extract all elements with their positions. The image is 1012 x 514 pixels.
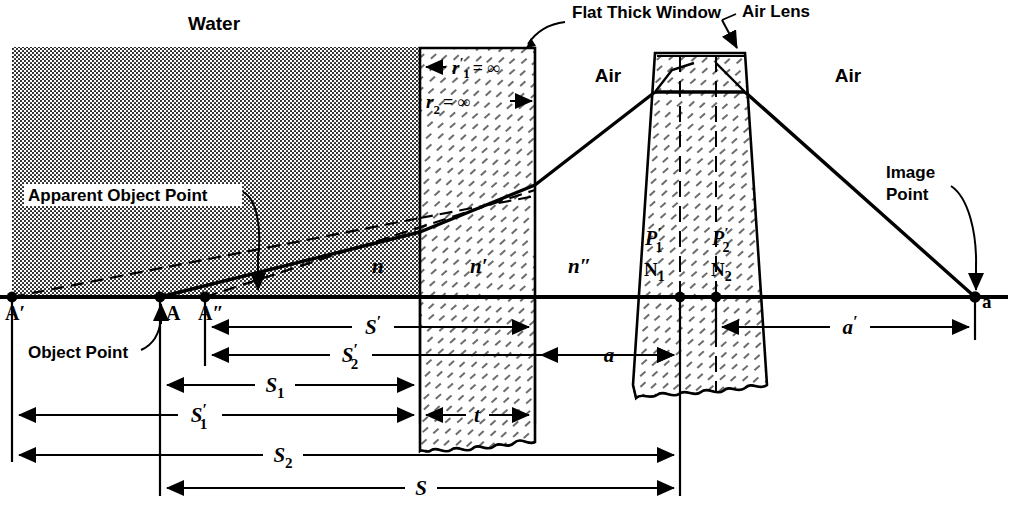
r1-symbol: r′1= ∞ [452, 56, 500, 81]
window-callout [526, 22, 565, 48]
label-A-double-prime: A″ [198, 302, 224, 324]
window-label: Flat Thick Window [572, 3, 722, 22]
object-point-label: Object Point [28, 343, 128, 362]
dim-label-S2-prime: S′2 [342, 341, 359, 372]
lens-callout [722, 14, 737, 48]
index-n-double-prime-label: n″ [568, 254, 591, 278]
dim-label-S-prime: S′ [365, 313, 381, 339]
air-lens [633, 53, 767, 398]
label-A: A [166, 302, 181, 324]
index-n-prime-label: n′ [470, 254, 488, 278]
optical-diagram: Water Flat Thick Window r′1= ∞ r2= ∞ Air… [0, 0, 1012, 514]
index-n-label: n [372, 254, 384, 278]
figure-canvas: Water Flat Thick Window r′1= ∞ r2= ∞ Air… [0, 0, 1012, 514]
air-right-label: Air [835, 65, 862, 86]
dimension-S1: S1 [167, 373, 414, 401]
dim-label-S2: S2 [273, 443, 292, 471]
water-label: Water [188, 13, 241, 34]
dim-label-S: S [415, 476, 427, 500]
lens-label: Air Lens [742, 2, 810, 21]
label-A-prime: A′ [5, 302, 25, 324]
image-point-label-line1: Image [886, 163, 935, 182]
air-left-label: Air [595, 65, 622, 86]
dim-label-a-prime: a′ [843, 313, 858, 339]
apparent-object-point-label: Apparent Object Point [28, 186, 208, 205]
image-point-label-line2: Point [886, 185, 929, 204]
water-region [12, 47, 420, 297]
dim-label-a: a [604, 343, 615, 367]
object-point-annotation: Object Point [28, 304, 161, 362]
image-point-annotation: Image Point [886, 163, 976, 290]
dimension-S2: S2 [19, 443, 674, 471]
dimension-S1-prime: S′1 [19, 401, 414, 432]
label-image-point-a: a [982, 291, 992, 312]
dim-label-S1: S1 [265, 373, 284, 401]
dim-label-S1-prime: S′1 [191, 401, 208, 432]
dimension-S: S [167, 476, 674, 500]
